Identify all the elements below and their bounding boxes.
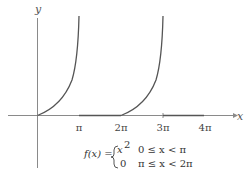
case1-expression: x [117, 144, 123, 155]
formula-lhs: f(x) = [83, 148, 113, 159]
case2-expression: 0 [120, 158, 126, 169]
case1-condition: 0 ≤ x < π [138, 144, 186, 155]
curve-segment-2 [121, 16, 163, 116]
tick-label-3pi: 3π [157, 122, 170, 133]
tick-label-2pi: 2π [115, 122, 128, 133]
y-axis-label: y [34, 3, 42, 16]
x-axis-label: x [237, 110, 244, 123]
piecewise-formula: f(x) = x 2 0 ≤ x < π 0 π ≤ x < 2π [83, 139, 193, 169]
function-graph: y x π 2π 3π 4π f(x) = x 2 0 ≤ x < π 0 π … [0, 0, 247, 179]
case2-condition: π ≤ x < 2π [138, 158, 193, 169]
tick-label-4pi: 4π [199, 122, 212, 133]
tick-label-pi: π [76, 122, 83, 133]
curve-segment-1 [38, 16, 80, 116]
case1-exponent: 2 [124, 139, 130, 150]
